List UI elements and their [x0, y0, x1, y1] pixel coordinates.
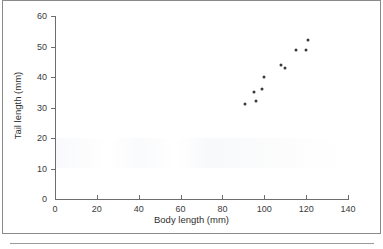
- footer-divider: [10, 243, 374, 244]
- y-axis-title: Tail length (mm): [12, 36, 23, 176]
- y-tick-mark: [51, 77, 55, 78]
- x-tick-label: 80: [207, 204, 237, 214]
- y-tick-mark: [51, 169, 55, 170]
- y-tick-label: 0: [21, 194, 47, 204]
- x-tick-label: 40: [124, 204, 154, 214]
- x-tick-mark: [264, 195, 265, 199]
- y-tick-label: 20: [21, 133, 47, 143]
- y-tick-label: 60: [21, 11, 47, 21]
- y-axis-line: [55, 16, 56, 200]
- x-tick-mark: [348, 195, 349, 199]
- x-tick-mark: [222, 195, 223, 199]
- data-point: [261, 88, 264, 91]
- scatter-chart: 0102030405060 020406080100120140 Body le…: [0, 0, 383, 234]
- y-tick-label: 10: [21, 164, 47, 174]
- data-point: [294, 48, 297, 51]
- y-tick-mark: [51, 16, 55, 17]
- x-tick-label: 140: [333, 204, 363, 214]
- x-axis-line: [55, 199, 349, 200]
- y-tick-label: 50: [21, 42, 47, 52]
- data-point: [305, 48, 308, 51]
- background-watermark: [55, 138, 355, 168]
- x-tick-label: 100: [249, 204, 279, 214]
- x-tick-mark: [181, 195, 182, 199]
- data-point: [254, 100, 257, 103]
- data-point: [307, 39, 310, 42]
- x-tick-mark: [139, 195, 140, 199]
- y-tick-mark: [51, 138, 55, 139]
- y-tick-label: 30: [21, 103, 47, 113]
- data-point: [263, 76, 266, 79]
- x-tick-mark: [97, 195, 98, 199]
- data-point: [244, 103, 247, 106]
- y-tick-label: 40: [21, 72, 47, 82]
- x-tick-label: 0: [40, 204, 70, 214]
- page-root: 0102030405060 020406080100120140 Body le…: [0, 0, 383, 249]
- y-tick-mark: [51, 47, 55, 48]
- data-point: [252, 91, 255, 94]
- x-tick-label: 20: [82, 204, 112, 214]
- data-point: [284, 66, 287, 69]
- y-tick-mark: [51, 108, 55, 109]
- data-point: [280, 63, 283, 66]
- x-axis-title: Body length (mm): [0, 214, 383, 225]
- x-tick-label: 120: [291, 204, 321, 214]
- x-tick-mark: [306, 195, 307, 199]
- x-tick-label: 60: [166, 204, 196, 214]
